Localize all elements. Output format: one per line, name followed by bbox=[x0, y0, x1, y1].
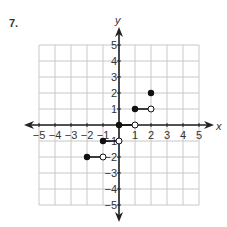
x-tick-label: −2 bbox=[81, 129, 94, 141]
y-tick-label: 2 bbox=[111, 87, 117, 99]
x-tick-label: 1 bbox=[132, 129, 138, 141]
y-tick-label: 4 bbox=[111, 55, 117, 67]
open-point-icon bbox=[116, 138, 122, 144]
y-axis-label: y bbox=[114, 14, 122, 26]
x-tick-label: 5 bbox=[196, 129, 202, 141]
x-tick-label: −5 bbox=[33, 129, 46, 141]
x-tick-label: 2 bbox=[148, 129, 154, 141]
x-tick-label: 4 bbox=[180, 129, 186, 141]
x-tick-label: −4 bbox=[49, 129, 62, 141]
y-tick-label: −4 bbox=[104, 183, 117, 195]
x-axis-label: x bbox=[215, 120, 222, 132]
closed-point-icon bbox=[84, 154, 90, 160]
y-tick-label: 1 bbox=[111, 103, 117, 115]
open-point-icon bbox=[132, 122, 138, 128]
open-point-icon bbox=[100, 154, 106, 160]
closed-point-icon bbox=[148, 90, 154, 96]
closed-point-icon bbox=[116, 122, 122, 128]
y-tick-label: −3 bbox=[104, 167, 117, 179]
open-point-icon bbox=[148, 106, 154, 112]
y-tick-label: 3 bbox=[111, 71, 117, 83]
closed-point-icon bbox=[132, 106, 138, 112]
x-tick-label: −3 bbox=[65, 129, 78, 141]
y-tick-label: −5 bbox=[104, 199, 117, 211]
coordinate-graph: −5−4−3−2−11234554321−1−2−3−4−5 x y bbox=[0, 0, 227, 227]
closed-point-icon bbox=[100, 138, 106, 144]
y-tick-label: 5 bbox=[111, 39, 117, 51]
x-tick-label: 3 bbox=[164, 129, 170, 141]
